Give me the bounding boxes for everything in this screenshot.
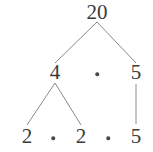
node-root-20: 20 [87, 2, 108, 23]
edge-root-to-left-branch [55, 22, 97, 63]
multiplication-dot-icon [95, 72, 99, 76]
node-prime-5: 5 [131, 126, 142, 147]
edge-four-to-right-two [55, 83, 81, 125]
multiplication-dot-icon [106, 136, 110, 140]
node-prime-2-first: 2 [22, 126, 33, 147]
node-factor-4: 4 [50, 62, 61, 83]
multiplication-dot-icon [51, 136, 55, 140]
edge-root-to-right-branch [97, 22, 136, 63]
node-prime-2-second: 2 [76, 126, 87, 147]
factor-tree-diagram: 20 4 5 2 2 5 [0, 0, 153, 152]
edge-four-to-left-two [27, 83, 55, 125]
node-factor-5: 5 [131, 62, 142, 83]
